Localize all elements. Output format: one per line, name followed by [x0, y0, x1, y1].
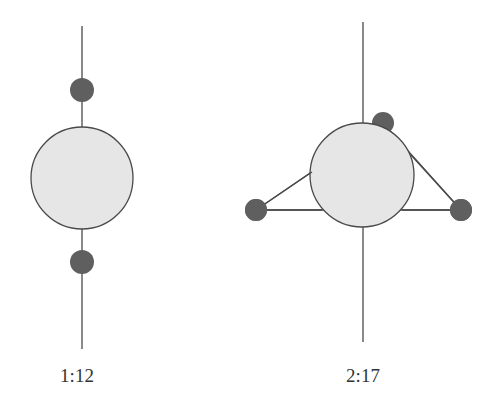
diagram-2-17 [245, 22, 472, 342]
diagram-1-12 [31, 26, 133, 349]
small-sphere-top [70, 78, 94, 102]
diagram-label-2: 2:17 [346, 365, 380, 387]
diagram-canvas [0, 0, 494, 403]
large-central-sphere [310, 123, 414, 227]
small-sphere-bottom [70, 250, 94, 274]
large-central-sphere [31, 127, 133, 229]
triangle-edge-right-visible [411, 155, 461, 210]
diagram-label-1: 1:12 [60, 365, 94, 387]
small-sphere-left-front [245, 199, 267, 221]
small-sphere-right-front [450, 199, 472, 221]
